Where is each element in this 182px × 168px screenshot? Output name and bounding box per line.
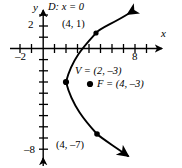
point-4-1	[93, 30, 98, 35]
directrix-label: D: x = 0	[48, 2, 84, 13]
x-tick-label-minus-2: –2	[15, 51, 26, 62]
x-axis-label: x	[161, 28, 166, 39]
plot-points	[63, 30, 100, 136]
y-axis	[39, 10, 48, 166]
point-vertex	[63, 79, 69, 85]
y-tick-label-minus-8: –8	[24, 144, 35, 155]
point-label-4-neg7: (4, –7)	[56, 140, 84, 151]
focus-label: F = (4, –3)	[97, 79, 144, 90]
point-focus	[87, 81, 93, 87]
x-tick-label-8: 8	[132, 51, 138, 62]
point-label-4-1: (4, 1)	[62, 19, 85, 30]
y-axis-label: y	[33, 2, 38, 13]
vertex-label: V = (2, –3)	[75, 66, 122, 77]
parabola-figure: y x –2 8 2 –8 D: x = 0 (4, 1) V = (2, –3…	[0, 0, 182, 168]
point-4-neg7	[94, 131, 100, 137]
y-tick-label-2: 2	[28, 19, 34, 30]
